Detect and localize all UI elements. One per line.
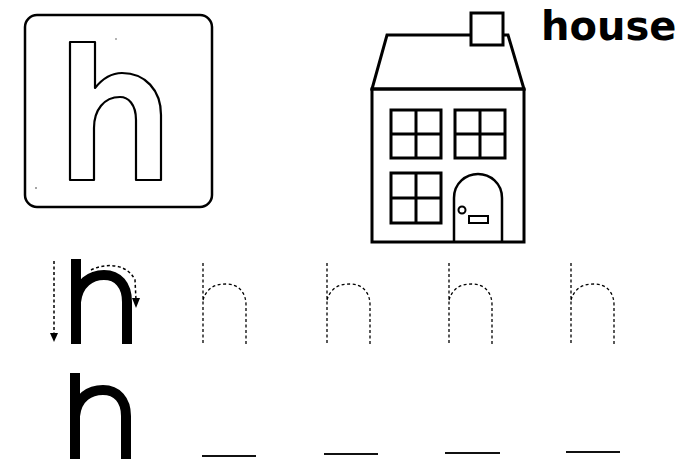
letter-card <box>25 15 212 207</box>
stroke-down-arrow-icon <box>50 261 58 342</box>
worksheet: house <box>0 0 680 465</box>
vocabulary-word: house <box>541 6 676 46</box>
dotted-letter-h-4 <box>571 263 614 345</box>
house-picture-icon <box>372 13 524 242</box>
model-letter-h-row1 <box>76 259 127 344</box>
model-letter-h-row2 <box>75 373 126 459</box>
writing-lines <box>202 452 620 456</box>
dotted-letter-h-2 <box>327 263 370 345</box>
dotted-letter-h-1 <box>203 263 246 345</box>
outline-letter-h-icon <box>70 42 161 180</box>
worksheet-art <box>0 0 680 465</box>
dotted-letter-h-3 <box>449 263 492 345</box>
